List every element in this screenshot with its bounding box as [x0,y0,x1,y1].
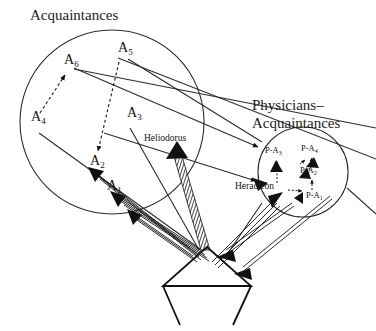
node-label-a6: A6 [64,52,79,69]
center-diamond-figure [163,247,251,325]
edge-a4-to-a6-dashed [40,75,65,113]
physicians-group-title-line2: Acquaintances [252,115,340,131]
edge-a5-outgoing [128,59,262,142]
svg-text:A2: A2 [90,153,105,170]
svg-text:A6: A6 [64,52,79,69]
edge-long-right-upper [118,58,376,159]
edge-heracleon-to-pa1-dashed [288,190,302,191]
svg-text:A1: A1 [107,178,122,195]
node-label-a4: A4 [31,109,46,126]
node-label-pa1: P-A1 [306,190,323,201]
svg-text:A3: A3 [127,105,142,122]
svg-text:P-A4: P-A4 [301,143,318,154]
arrowhead-pa4 [306,157,319,168]
node-label-a1: A1 [107,178,122,195]
svg-text:P-A1: P-A1 [306,190,323,201]
node-label-heliodorus: Heliodorus [144,133,187,143]
svg-text:P-A3: P-A3 [265,145,282,156]
diagram-canvas: A6 A5 A4 A3 A2 A1 [0,0,376,331]
acquaintances-group-title: Acquaintances [30,7,118,23]
node-label-heracleon: Heracleon [235,181,274,191]
node-label-pa3: P-A3 [265,145,282,156]
node-label-pa4: P-A4 [301,143,318,154]
edge-small-circle-right-out [347,188,376,214]
svg-text:A4: A4 [31,109,46,126]
edge-pa2-to-pa4-b-dashed [300,160,305,164]
physicians-group-title-line1: Physicians– [252,97,324,113]
arrowhead-pa3 [270,160,283,172]
edge-center-to-left-bundle [127,209,197,262]
svg-text:A5: A5 [118,40,133,57]
node-label-a2: A2 [90,153,105,170]
arrowhead-pa1 [294,192,303,204]
diagram-svg: A6 A5 A4 A3 A2 A1 [0,0,376,331]
node-label-a5: A5 [118,40,133,57]
node-label-a3: A3 [127,105,142,122]
